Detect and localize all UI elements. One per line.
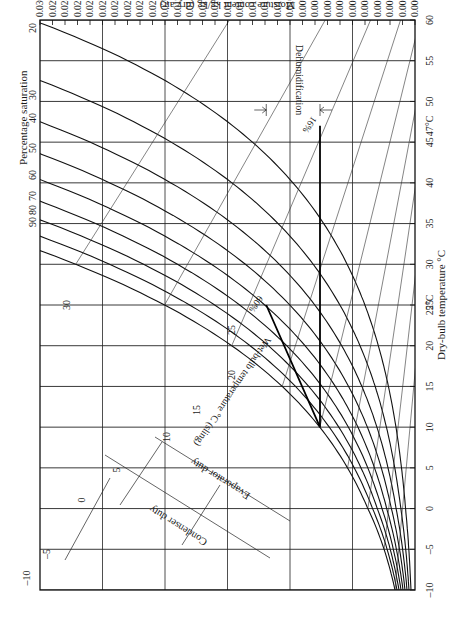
saturation-label-90: 90 [27, 217, 38, 227]
saturation-label-20: 20 [27, 23, 38, 33]
saturation-curve-50 [20, 146, 405, 590]
wetbulb-axis-title: Wet-bulb temperature °C (sling) [191, 335, 273, 449]
moisture-axis-title: Moisture content kg/kg (dry air) [159, 0, 295, 11]
moisture-tick-label: 0.008 [310, 0, 320, 17]
dehumidification-label: Dehumidification [294, 45, 305, 116]
moisture-tick-label: 0.030 [35, 0, 45, 17]
moisture-tick-label: 0.025 [98, 0, 108, 17]
wetbulb-label: 30 [61, 300, 72, 310]
wetbulb-label: 0 [76, 498, 87, 503]
saturation-curve-70 [23, 195, 401, 590]
moisture-tick-label: 0.009 [298, 0, 308, 17]
drybulb-axis-title: Dry-bulb temperature °C [435, 250, 447, 360]
psychrometric-chart: 0.0000.0010.0020.0030.0040.0050.0060.007… [0, 0, 449, 629]
drybulb-tick-label: 55 [424, 56, 435, 66]
saturation-curve-80 [16, 211, 399, 590]
wetbulb-label: 10 [161, 432, 172, 442]
saturation-label-80: 80 [27, 205, 38, 215]
drybulb-tick-label: 30 [424, 259, 435, 269]
evap-extension-1 [120, 442, 162, 505]
moisture-tick-label: 0.026 [85, 0, 95, 17]
saturation-label-60: 60 [27, 170, 38, 180]
drybulb-tick-label: 10 [424, 422, 435, 432]
saturation-label-70: 70 [27, 191, 38, 201]
drybulb-tick-label: 60 [424, 15, 435, 25]
wetbulb-label: 15 [191, 405, 202, 415]
moisture-tick-label: 0.023 [123, 0, 133, 17]
wetbulb-line [232, 0, 440, 346]
drybulb-label-47c: 47°C [424, 115, 435, 136]
moisture-tick-label: 0.028 [60, 0, 70, 17]
drybulb-tick-label: 50 [424, 96, 435, 106]
condenser-duty-label: Condenser duty [147, 503, 210, 548]
wetbulb-label: –10 [21, 571, 32, 587]
moisture-tick-label: 0.003 [373, 0, 383, 17]
drybulb-tick-label: 15 [424, 381, 435, 391]
moisture-tick-label: 0.002 [385, 0, 395, 17]
moisture-tick-label: 0.029 [48, 0, 58, 17]
moisture-tick-label: 0.005 [348, 0, 358, 17]
wetbulb-line [76, 0, 384, 264]
drybulb-tick-label: 35 [424, 219, 435, 229]
wetbulb-label: –5 [41, 549, 52, 560]
saturation-curve-40 [18, 114, 407, 590]
wetbulb-line [348, 0, 440, 468]
saturation-label-40: 40 [27, 113, 38, 123]
dehum-arrow-right [320, 107, 332, 113]
evaporator-duty-label: Evaporator duty [188, 456, 252, 502]
drybulb-tick-label: 5 [424, 465, 435, 470]
drybulb-tick-label: 45 [424, 137, 435, 147]
wetbulb-label: 25 [226, 325, 237, 335]
moisture-tick-label: 0.000 [410, 0, 420, 17]
drybulb-tick-label: –5 [424, 544, 435, 555]
moisture-tick-label: 0.004 [360, 0, 370, 17]
drybulb-tick-label: 40 [424, 178, 435, 188]
moisture-tick-label: 0.027 [73, 0, 83, 17]
saturation-curve-30 [20, 73, 409, 590]
moisture-tick-label: 0.007 [323, 0, 333, 17]
moisture-tick-label: 0.024 [110, 0, 120, 17]
moisture-tick-label: 0.001 [398, 0, 408, 17]
drybulb-tick-label: 0 [424, 506, 435, 511]
process-path [266, 126, 320, 427]
drybulb-tick-label: –10 [424, 583, 435, 599]
condenser-duty-dimension [105, 455, 270, 558]
saturation-label-50: 50 [27, 143, 38, 153]
cond-extension [65, 478, 110, 560]
drybulb-label-25c: 25°C [424, 294, 435, 315]
moisture-tick-label: 0.022 [135, 0, 145, 17]
dehum-arrow-left [254, 107, 266, 113]
moisture-tick-label: 0.021 [148, 0, 158, 17]
drybulb-tick-label: 20 [424, 341, 435, 351]
wetbulb-label: 5 [111, 468, 122, 473]
moisture-tick-label: 0.006 [335, 0, 345, 17]
point-label-16pct: 16% [301, 115, 319, 135]
saturation-label-30: 30 [27, 90, 38, 100]
